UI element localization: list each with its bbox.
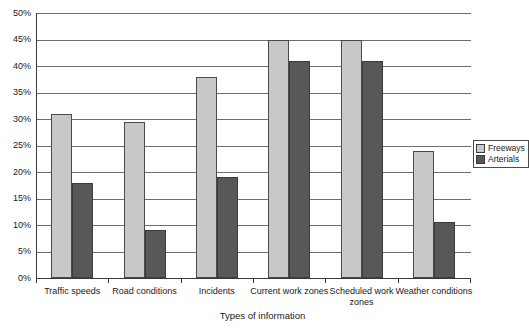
y-axis-tick-label: 25% (0, 141, 31, 150)
y-axis-tick-label: 35% (0, 88, 31, 97)
legend-swatch-arterials (476, 155, 485, 164)
bar-arterials-1 (145, 230, 166, 278)
legend-label-freeways: Freeways (488, 144, 525, 153)
bar-freeways-5 (413, 151, 434, 278)
x-axis-tick (398, 278, 399, 283)
y-axis-tick-label: 0% (0, 274, 31, 283)
x-axis-tick (325, 278, 326, 283)
legend-item-arterials: Arterials (476, 154, 525, 165)
bar-freeways-4 (341, 40, 362, 279)
bar-freeways-1 (124, 122, 145, 278)
y-axis-labels: 50%45%40%35%30%25%20%15%10%5%0% (0, 13, 36, 278)
y-axis-tick-label: 15% (0, 194, 31, 203)
y-axis-tick-label: 20% (0, 168, 31, 177)
legend-label-arterials: Arterials (488, 155, 519, 164)
x-axis-tick (181, 278, 182, 283)
bar-freeways-2 (196, 77, 217, 278)
y-axis-tick-label: 45% (0, 35, 31, 44)
y-axis-tick-label: 30% (0, 115, 31, 124)
x-axis-tick (36, 278, 37, 283)
bars-layer (36, 13, 470, 278)
x-axis-tick (108, 278, 109, 283)
bar-freeways-3 (268, 40, 289, 279)
x-axis-category-label: Weather conditions (392, 286, 476, 297)
legend-swatch-freeways (476, 144, 485, 153)
y-axis-tick-label: 5% (0, 247, 31, 256)
x-axis-tick (470, 278, 471, 283)
gridline (37, 278, 471, 279)
legend-item-freeways: Freeways (476, 143, 525, 154)
bar-arterials-2 (217, 177, 238, 278)
bar-arterials-5 (434, 222, 455, 278)
bar-arterials-3 (289, 61, 310, 278)
bar-arterials-0 (72, 183, 93, 278)
y-axis-tick-label: 50% (0, 9, 31, 18)
y-axis-tick-label: 10% (0, 221, 31, 230)
bar-arterials-4 (362, 61, 383, 278)
y-axis-tick-label: 40% (0, 62, 31, 71)
bar-freeways-0 (51, 114, 72, 278)
x-axis-tick (253, 278, 254, 283)
x-axis-title: Types of information (0, 310, 525, 321)
legend: Freeways Arterials (473, 140, 529, 168)
